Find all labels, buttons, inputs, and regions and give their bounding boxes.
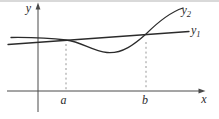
y-axis-arrow-icon: [36, 3, 41, 10]
curve-y2: [11, 8, 183, 53]
x-axis-label: x: [200, 92, 207, 106]
top-edge-band: [0, 0, 219, 2]
tick-label-a: a: [61, 93, 67, 107]
y-axis-label: y: [25, 1, 32, 15]
curve-y2-label: y2: [181, 3, 192, 19]
function-graph-svg: y x a b y2 y1: [0, 0, 219, 119]
curve-y2-label-sub: 2: [187, 9, 192, 19]
curve-y1-label-sub: 1: [196, 29, 200, 39]
function-graph-figure: y x a b y2 y1: [0, 0, 219, 119]
tick-label-b: b: [142, 93, 148, 107]
curve-y1-label: y1: [190, 23, 201, 39]
